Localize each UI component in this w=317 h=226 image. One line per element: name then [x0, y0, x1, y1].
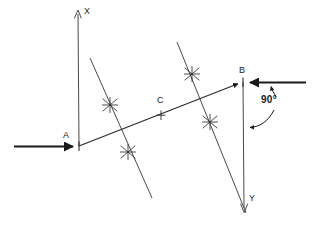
ray-BY-group [241, 82, 248, 213]
label-point-b: B [239, 66, 245, 75]
ray-AX-group [75, 10, 82, 146]
construction-lines-group [90, 42, 246, 213]
left-perpendicular-bisector-line [90, 58, 152, 198]
angle-arrow-to-vertical-icon [250, 110, 274, 128]
right-perpendicular-bisector-line [177, 42, 246, 213]
label-point-c: C [157, 96, 164, 105]
diagram-canvas [0, 0, 317, 226]
point-c-tick-marker [157, 111, 166, 121]
label-point-x: X [84, 7, 90, 16]
ray-BY-vertical-line [243, 82, 244, 208]
arc-mark-right-upper-icon [185, 67, 200, 82]
label-point-a: A [63, 131, 69, 140]
label-right-angle: 90° [261, 95, 277, 105]
arc-intersection-marks-group [103, 67, 218, 160]
angle-annotation-arrows-group [250, 87, 276, 128]
label-point-y: Y [249, 194, 255, 203]
ray-AX-vertical-line [78, 14, 79, 146]
arc-mark-left-upper-icon [103, 98, 118, 113]
arc-mark-right-lower-icon [203, 115, 218, 130]
geometry-diagram: X A B C Y 90° [0, 0, 317, 226]
arc-mark-left-lower-icon [121, 145, 136, 160]
